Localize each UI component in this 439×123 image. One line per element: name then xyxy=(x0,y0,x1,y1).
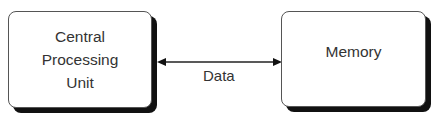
cpu-label-line-3: Unit xyxy=(42,71,119,94)
data-arrow xyxy=(157,58,282,66)
cpu-label-line-1: Central xyxy=(42,25,119,48)
cpu-label-line-2: Processing xyxy=(42,48,119,71)
data-edge-label: Data xyxy=(203,67,235,84)
memory-label: Memory xyxy=(326,40,382,63)
memory-node: Memory xyxy=(281,11,426,107)
cpu-node: Central Processing Unit xyxy=(8,11,152,108)
